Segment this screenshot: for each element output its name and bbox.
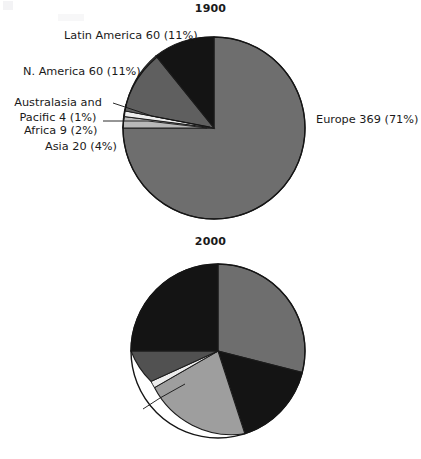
pie-chart-2000: 2000 Latin America 477 (25%) N. America …	[0, 230, 421, 459]
label-australasia-1900: Australasia and Pacific 4 (1%)	[6, 96, 110, 125]
label-australasia-line1-1900: Australasia and	[14, 96, 102, 109]
label-n-america-1900: N. America 60 (11%)	[23, 65, 141, 79]
label-latin-america-1900: Latin America 60 (11%)	[64, 29, 198, 43]
label-asia-1900: Asia 20 (4%)	[45, 140, 117, 154]
label-africa-1900: Africa 9 (2%)	[24, 124, 97, 138]
pie-chart-1900: 1900 Latin America 60 (11%) N. America 6…	[0, 0, 421, 230]
label-australasia-line2-1900: Pacific 4 (1%)	[19, 111, 96, 124]
callout-lines-2000	[0, 230, 421, 459]
label-europe-1900: Europe 369 (71%)	[316, 113, 418, 127]
